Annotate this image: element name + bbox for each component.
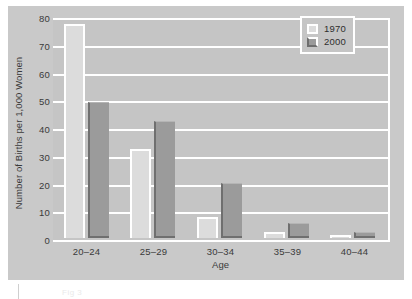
x-axis-tick-labels: 20–2425–2930–3435–3940–44 <box>53 246 388 257</box>
bar-1970-30-34 <box>197 217 218 238</box>
y-tick-label: 80 <box>24 13 50 24</box>
bar-group <box>53 18 120 238</box>
bar-2000-25-29 <box>154 121 175 238</box>
bar-2000-20-24 <box>88 102 109 238</box>
x-tick-label: 35–39 <box>254 246 321 257</box>
footer-artifact-text: Fig 3 <box>62 288 82 297</box>
chart-figure: Number of Births per 1,000 Women 0102030… <box>0 0 412 299</box>
legend-item-1970[interactable]: 1970 <box>307 22 346 35</box>
bar-2000-35-39 <box>288 223 309 238</box>
legend-label: 1970 <box>324 23 346 34</box>
legend-label: 2000 <box>324 36 346 47</box>
bar-1970-35-39 <box>264 232 285 238</box>
y-tick-label: 0 <box>24 235 50 246</box>
chart-legend: 19702000 <box>300 16 355 54</box>
legend-swatch-icon <box>307 37 318 47</box>
x-tick-label: 40–44 <box>321 246 388 257</box>
y-tick-label: 50 <box>24 96 50 107</box>
y-tick-label: 60 <box>24 68 50 79</box>
gridline <box>53 240 388 242</box>
y-tick-label: 20 <box>24 179 50 190</box>
y-tick-label: 10 <box>24 207 50 218</box>
legend-swatch-icon <box>307 24 318 34</box>
y-tick-label: 70 <box>24 40 50 51</box>
x-tick-label: 30–34 <box>187 246 254 257</box>
y-tick-label: 40 <box>24 124 50 135</box>
bar-1970-40-44 <box>330 235 351 238</box>
x-axis-title: Age <box>53 259 388 270</box>
x-tick-label: 20–24 <box>53 246 120 257</box>
bar-group <box>120 18 187 238</box>
footer-tick-mark <box>18 284 19 299</box>
bar-1970-25-29 <box>130 149 151 238</box>
y-axis-tick-labels: 01020304050607080 <box>24 18 50 242</box>
bar-2000-40-44 <box>354 232 375 238</box>
y-tick-label: 30 <box>24 151 50 162</box>
x-tick-label: 25–29 <box>120 246 187 257</box>
bar-group <box>186 18 253 238</box>
legend-item-2000[interactable]: 2000 <box>307 35 346 48</box>
bar-2000-30-34 <box>221 183 242 239</box>
bar-1970-20-24 <box>64 24 85 238</box>
